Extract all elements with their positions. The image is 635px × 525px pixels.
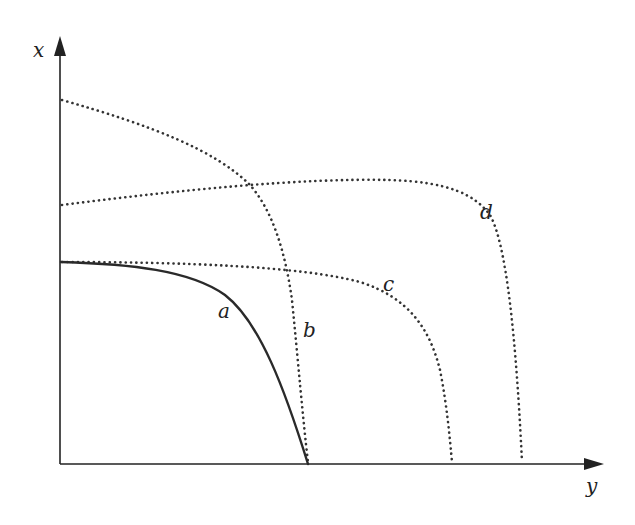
vertical-axis-arrow-icon (54, 36, 66, 56)
curve-b-label: b (303, 318, 316, 342)
diagram: x y a b c d (0, 0, 635, 525)
curve-a-label: a (218, 299, 230, 323)
curve-a (61, 262, 308, 464)
curve-c-label: c (383, 272, 394, 296)
horizontal-axis-label: y (585, 474, 598, 498)
curve-d-label: d (480, 200, 493, 224)
horizontal-axis-arrow-icon (584, 458, 604, 470)
curve-d (62, 180, 522, 462)
vertical-axis-label: x (33, 38, 44, 62)
axes: x y (33, 36, 604, 498)
curve-b (62, 100, 308, 462)
